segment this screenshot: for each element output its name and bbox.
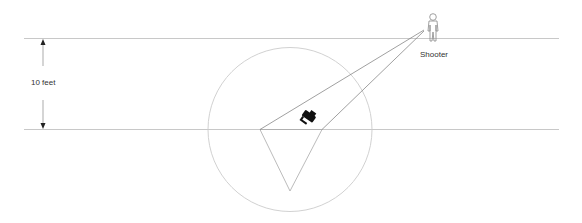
sight-line-right <box>322 31 424 130</box>
diagram-canvas: 10 feet Shooter <box>0 0 582 223</box>
shooter-label: Shooter <box>420 50 448 59</box>
camera-icon <box>299 107 318 126</box>
view-triangle <box>260 130 322 192</box>
sight-line-left <box>260 30 424 130</box>
person-icon <box>428 14 438 41</box>
dimension-label: 10 feet <box>31 78 55 87</box>
diagram-svg <box>0 0 582 223</box>
